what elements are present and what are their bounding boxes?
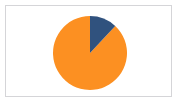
pie-chart-plot-area[interactable] <box>6 6 171 96</box>
pie-slices <box>53 16 127 90</box>
chart-frame <box>5 5 172 97</box>
pie-slice-series-1[interactable] <box>53 16 127 90</box>
pie-chart-svg[interactable] <box>6 6 173 98</box>
